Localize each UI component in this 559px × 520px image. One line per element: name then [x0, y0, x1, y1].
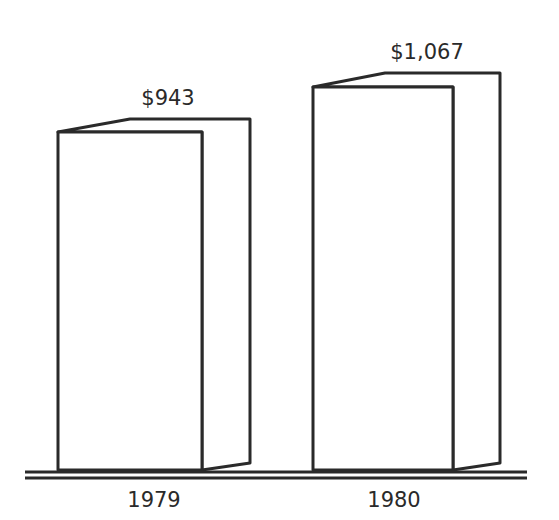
bar-1980-front [313, 87, 453, 470]
bar-1980 [313, 73, 500, 470]
bar-chart [0, 0, 559, 520]
baseline [25, 472, 527, 478]
bar-1979-value-label: $943 [141, 86, 194, 110]
bar-1979 [58, 119, 250, 470]
bar-1980-value-label: $1,067 [390, 40, 463, 64]
x-tick-1980: 1980 [367, 488, 420, 512]
bar-1979-front [58, 132, 202, 470]
x-tick-1979: 1979 [127, 488, 180, 512]
